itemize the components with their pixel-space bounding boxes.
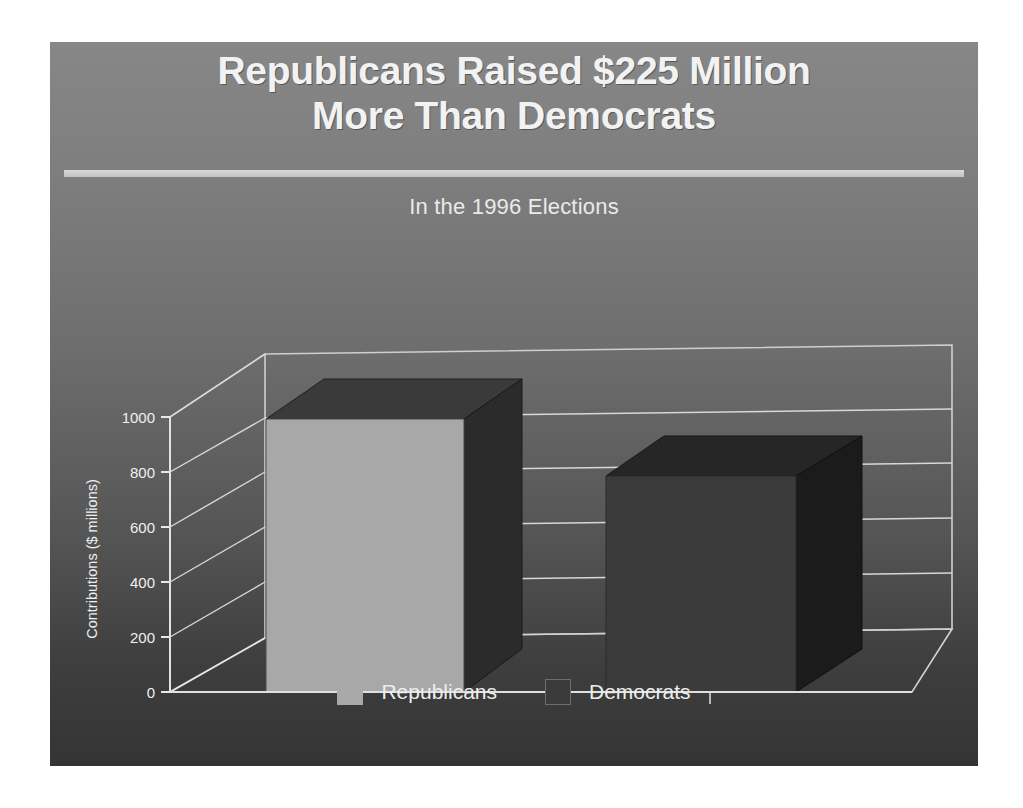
legend-label-democrats: Democrats <box>589 680 691 704</box>
slide-subtitle: In the 1996 Elections <box>50 194 978 220</box>
title-line-1: Republicans Raised $225 Million <box>50 48 978 93</box>
legend-item-democrats[interactable]: Democrats <box>545 679 691 705</box>
y-tick-label-800: 800 <box>130 464 155 481</box>
presentation-slide: Republicans Raised $225 Million More Tha… <box>50 42 978 766</box>
bar-republicans-front <box>266 419 464 692</box>
chart-svg: 0 200 400 600 800 1000 Contributions ($ … <box>50 237 978 717</box>
bar-democrats-side <box>796 436 862 692</box>
y-tick-label-600: 600 <box>130 519 155 536</box>
legend-label-republicans: Republicans <box>381 680 497 704</box>
title-divider-rule <box>64 170 964 177</box>
y-axis-title: Contributions ($ millions) <box>84 479 100 639</box>
legend-item-republicans[interactable]: Republicans <box>337 679 497 705</box>
y-tick-label-200: 200 <box>130 629 155 646</box>
slide-title: Republicans Raised $225 Million More Tha… <box>50 48 978 138</box>
y-axis-title-text: Contributions ($ millions) <box>84 479 100 639</box>
title-line-2: More Than Democrats <box>50 93 978 138</box>
bar-chart-3d: 0 200 400 600 800 1000 Contributions ($ … <box>50 237 978 717</box>
y-tick-label-1000: 1000 <box>122 409 155 426</box>
democrats-swatch-icon <box>545 679 571 705</box>
y-axis-tick-labels: 0 200 400 600 800 1000 <box>122 409 155 701</box>
republicans-swatch-icon <box>337 679 363 705</box>
bar-republicans[interactable] <box>266 379 522 692</box>
y-axis-line <box>170 354 265 692</box>
bar-democrats-front <box>606 476 796 692</box>
y-axis-ticks <box>161 417 170 692</box>
y-tick-label-400: 400 <box>130 574 155 591</box>
bar-republicans-side <box>464 379 522 692</box>
bar-democrats[interactable] <box>606 436 862 692</box>
chart-legend: Republicans Democrats <box>50 667 978 717</box>
